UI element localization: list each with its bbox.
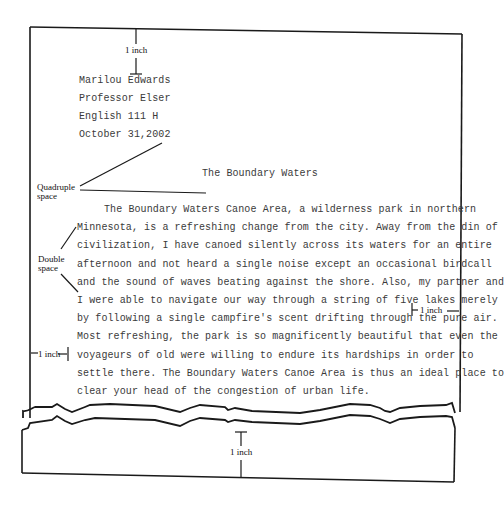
- paper-title: The Boundary Waters: [202, 168, 318, 180]
- body-line: civilization, I have canoed silently acr…: [77, 240, 492, 252]
- body-line: settle there. The Boundary Waters Canoe …: [77, 368, 504, 380]
- body-line: by following a single campfire's scent d…: [77, 313, 498, 325]
- body-line: and the sound of waves beating against t…: [77, 277, 504, 289]
- top-margin-label: 1 inch: [125, 46, 147, 55]
- page-top-edge: [30, 27, 462, 34]
- body-line: Most refreshing, the park is so magnific…: [77, 331, 498, 343]
- body-line: I were able to navigate our way through …: [77, 295, 498, 307]
- bottom-margin-label: 1 inch: [230, 448, 252, 457]
- body-line: Minnesota, is a refreshing change from t…: [77, 222, 498, 234]
- body-line: The Boundary Waters Canoe Area, a wilder…: [104, 204, 476, 216]
- quadruple-space-label-line2: space: [37, 192, 57, 201]
- torn-edge-top: [23, 403, 455, 418]
- left-margin-label: 1 inch: [38, 350, 60, 359]
- heading-instructor: Professor Elser: [79, 93, 171, 105]
- page-bottom-edge: [22, 473, 454, 482]
- heading-course: English 111 H: [79, 111, 158, 123]
- torn-edge-bottom: [22, 415, 455, 430]
- heading-date: October 31,2002: [79, 129, 171, 141]
- body-line: afternoon and not heard a single noise e…: [77, 259, 492, 271]
- body-line: voyageurs of old were willing to endure …: [77, 350, 474, 362]
- body-line: clear your head of the congestion of urb…: [77, 386, 370, 398]
- heading-student-name: Marilou Edwards: [79, 75, 171, 87]
- double-space-label-line2: space: [38, 264, 58, 273]
